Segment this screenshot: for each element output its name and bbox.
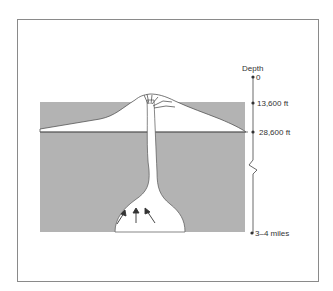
depth-label-28600ft: 28,600 ft bbox=[259, 128, 291, 137]
depth-label-13600ft: 13,600 ft bbox=[257, 99, 289, 108]
depth-axis-title: Depth bbox=[242, 64, 263, 73]
depth-axis bbox=[249, 77, 257, 233]
depth-label-3-4-miles: 3–4 miles bbox=[255, 229, 289, 238]
volcano-diagram: Depth 0 13,600 ft 28,600 ft 3–4 miles bbox=[0, 0, 333, 291]
depth-label-0: 0 bbox=[256, 73, 261, 82]
depth-markers bbox=[250, 75, 254, 234]
